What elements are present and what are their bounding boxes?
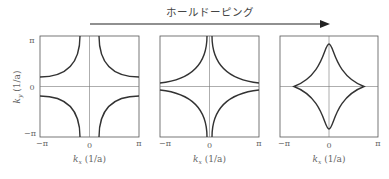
- panel-2: [160, 36, 259, 137]
- x-tick: 0: [207, 141, 212, 150]
- x-tick: 0: [87, 141, 92, 150]
- y-tick-pi: π: [29, 36, 34, 45]
- doping-arrow: [90, 20, 330, 28]
- x-axis-label: kx (1/a): [73, 154, 106, 165]
- panel-1: [40, 36, 139, 137]
- y-tick-neg-pi: −π: [24, 129, 36, 138]
- x-tick: π: [375, 139, 380, 148]
- x-tick: −π: [278, 139, 290, 148]
- x-tick: π: [256, 139, 261, 148]
- x-tick: −π: [36, 139, 48, 148]
- y-axis-label: ky (1/a): [12, 71, 24, 104]
- x-axis-label: kx (1/a): [313, 154, 346, 165]
- x-axis-label: kx (1/a): [193, 154, 226, 165]
- fermi-surface-diagram: π 0 −π ky (1/a) −π 0 π kx (1/a) −π 0 π k…: [0, 0, 389, 179]
- x-tick: π: [136, 139, 141, 148]
- x-tick: −π: [159, 139, 171, 148]
- y-tick-0: 0: [29, 83, 34, 92]
- panel-3: [280, 36, 378, 137]
- x-tick: 0: [326, 141, 331, 150]
